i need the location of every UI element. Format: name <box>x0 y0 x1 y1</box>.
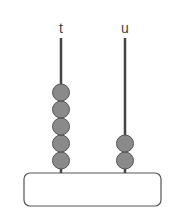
abacus-diagram: t u <box>0 0 172 216</box>
bead <box>53 84 70 101</box>
bead <box>117 152 134 169</box>
bead <box>53 152 70 169</box>
abacus-base <box>24 173 161 206</box>
rod-label-tens: t <box>59 20 63 36</box>
beads <box>53 84 134 169</box>
bead <box>117 135 134 152</box>
bead <box>53 135 70 152</box>
bead <box>53 118 70 135</box>
rod-label-units: u <box>121 20 129 36</box>
bead <box>53 101 70 118</box>
